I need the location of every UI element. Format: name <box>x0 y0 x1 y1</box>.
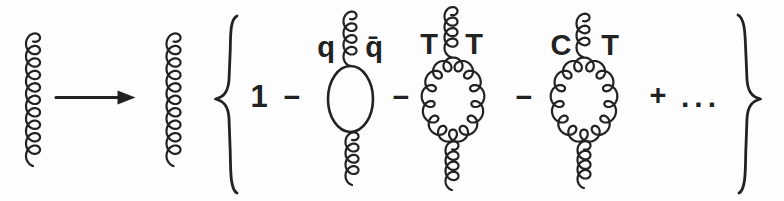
gluon-loop-tt-ring <box>422 58 485 142</box>
quark-loop-gluon-bottom <box>346 132 359 185</box>
gluon-propagator-equation: 1 − q q̄ − T T − C T + ... <box>0 0 784 201</box>
feynman-diagram-figure: 1 − q q̄ − T T − C T + ... <box>0 0 784 201</box>
minus-sign-2: − <box>393 81 410 113</box>
plus-sign: + <box>650 79 667 111</box>
ct-right-label: T <box>601 29 619 61</box>
minus-sign-1: − <box>284 81 301 113</box>
gluon-loop-ct-bottom <box>578 141 591 188</box>
term-one: 1 <box>250 79 267 114</box>
arrow-head <box>118 91 136 105</box>
close-brace <box>738 15 761 193</box>
gluon-loop-ct-diagram: C T <box>551 14 620 188</box>
arrow-right <box>56 91 136 105</box>
gluon-propagator-left <box>26 33 40 166</box>
quark-loop-gluon-top <box>344 12 357 66</box>
minus-sign-3: − <box>516 81 533 113</box>
gluon-propagator-corrected <box>167 33 181 166</box>
gluon-loop-tt-bottom <box>446 141 459 190</box>
quark-label: q <box>317 31 335 63</box>
gluon-loop-tt-top <box>445 7 458 57</box>
gluon-loop-ct-top <box>577 14 590 57</box>
tt-right-label: T <box>465 28 483 60</box>
quark-loop-diagram: q q̄ <box>317 12 383 185</box>
antiquark-label: q̄ <box>365 31 383 63</box>
ellipsis: ... <box>681 80 721 113</box>
gluon-loop-ct-ring <box>551 58 618 142</box>
tt-left-label: T <box>420 28 438 60</box>
gluon-loop-tt-diagram: T T <box>420 7 484 190</box>
quark-loop-ellipse <box>328 66 373 132</box>
ct-left-label: C <box>551 29 572 61</box>
open-brace <box>216 16 238 193</box>
